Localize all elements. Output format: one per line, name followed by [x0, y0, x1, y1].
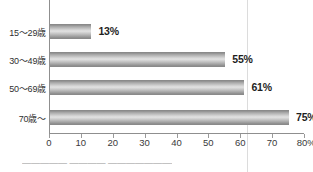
value-label-1: 13%: [98, 25, 118, 37]
x-tick-label-70: 70: [267, 137, 278, 148]
category-label-3: 50〜69歳: [9, 82, 46, 95]
value-label-4: 75%: [296, 111, 313, 123]
x-tick-label-10: 10: [76, 137, 87, 148]
bar-4: [50, 110, 289, 125]
bar-3: [50, 80, 244, 95]
vertical-artifact-line: [247, 0, 248, 172]
x-tick-label-0: 0: [46, 137, 51, 148]
value-label-3: 61%: [251, 81, 271, 93]
x-tick-label-60: 60: [235, 137, 246, 148]
x-tick-label-80: 80%: [297, 137, 313, 148]
category-label-1: 15〜29歳: [9, 26, 46, 39]
x-tick-label-50: 50: [203, 137, 214, 148]
x-tick-label-30: 30: [139, 137, 150, 148]
value-label-2: 55%: [232, 53, 252, 65]
category-label-2: 30〜49歳: [9, 54, 46, 67]
bar-chart: 01020304050607080% 15〜29歳13%30〜49歳55%50〜…: [0, 0, 313, 172]
x-tick-label-40: 40: [171, 137, 182, 148]
bottom-cropped-text-content: ▬▬▬▬▬ ▬▬▬▬ ▬▬▬▬▬▬▬▬: [22, 163, 172, 166]
x-tick-label-20: 20: [107, 137, 118, 148]
category-label-4: 70歳〜: [19, 112, 46, 125]
bottom-cropped-text: ▬▬▬▬▬ ▬▬▬▬ ▬▬▬▬▬▬▬▬: [22, 163, 172, 166]
bar-1: [50, 24, 91, 39]
bar-2: [50, 52, 225, 67]
